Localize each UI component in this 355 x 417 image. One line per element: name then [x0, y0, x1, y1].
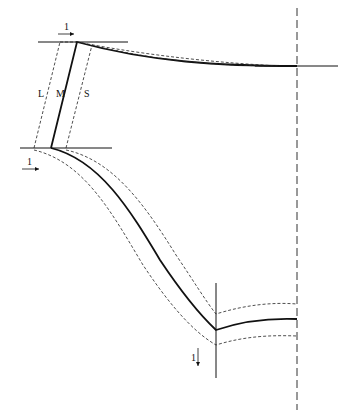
label-l: L [38, 88, 44, 99]
label-m: M [56, 88, 65, 99]
left-scale-label: 1 [27, 156, 32, 167]
bottom-scale-label: 1 [191, 352, 196, 363]
mountain-profile-diagram: L M S 1 1 1 [0, 0, 355, 417]
left-scale-arrowhead [35, 167, 39, 171]
bottom-scale-arrowhead [196, 362, 200, 366]
right-band-top-upper [77, 42, 280, 66]
label-s: S [84, 88, 90, 99]
middle-lower-path [51, 148, 297, 330]
top-scale-label: 1 [64, 21, 69, 32]
left-band-lower [34, 150, 297, 345]
top-scale-arrowhead [70, 32, 74, 36]
